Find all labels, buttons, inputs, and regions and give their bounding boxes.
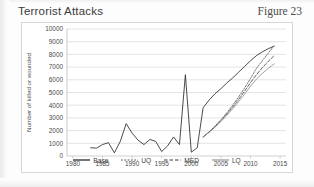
legend-swatch-med bbox=[164, 157, 181, 163]
legend-item-uq[interactable]: UQ bbox=[121, 157, 151, 164]
legend-label: UQ bbox=[141, 157, 151, 164]
figure-header: Terrorist Attacks Figure 23 bbox=[0, 0, 314, 24]
y-tick-label: 5000 bbox=[49, 89, 64, 96]
figure-page: Terrorist Attacks Figure 23 010002000300… bbox=[0, 0, 314, 187]
y-tick-label: 7000 bbox=[49, 63, 64, 70]
figure-number: Figure 23 bbox=[258, 5, 302, 17]
legend-label: MED bbox=[184, 157, 199, 164]
y-tick-label: 6000 bbox=[49, 76, 64, 83]
legend-item-med[interactable]: MED bbox=[164, 157, 199, 164]
legend-item-lq[interactable]: LQ bbox=[212, 157, 241, 164]
y-tick-label: 10000 bbox=[45, 25, 63, 32]
legend-swatch-uq bbox=[121, 157, 138, 163]
legend-swatch-base bbox=[73, 157, 90, 163]
legend-item-base[interactable]: Base bbox=[73, 157, 108, 164]
line-chart: 0100020003000400050006000700080009000100… bbox=[22, 23, 292, 172]
chart-frame: 0100020003000400050006000700080009000100… bbox=[21, 22, 293, 173]
y-axis-title: Number of killed or wounded bbox=[25, 53, 32, 132]
legend-swatch-lq bbox=[212, 157, 229, 163]
y-tick-label: 2000 bbox=[49, 127, 64, 134]
page-edge-bottom bbox=[0, 178, 314, 187]
series-line-lq bbox=[203, 64, 274, 137]
y-tick-label: 8000 bbox=[49, 51, 64, 58]
y-tick-label: 3000 bbox=[49, 114, 64, 121]
chart-legend: BaseUQMEDLQ bbox=[21, 152, 293, 168]
series-line-uq bbox=[203, 46, 274, 137]
legend-label: Base bbox=[93, 157, 108, 164]
series-line-base bbox=[91, 46, 274, 153]
page-edge-left bbox=[0, 0, 9, 187]
y-tick-label: 4000 bbox=[49, 102, 64, 109]
page-title: Terrorist Attacks bbox=[18, 5, 103, 17]
legend-label: LQ bbox=[232, 157, 241, 164]
y-tick-label: 9000 bbox=[49, 38, 64, 45]
y-tick-label: 1000 bbox=[49, 140, 64, 147]
